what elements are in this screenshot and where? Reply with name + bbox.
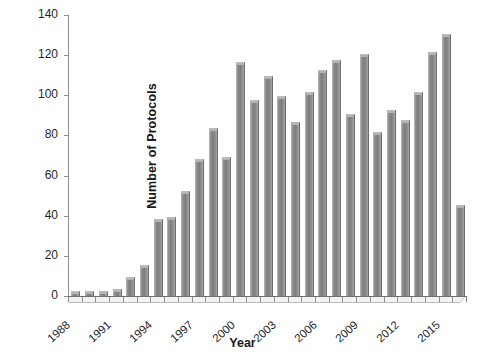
bar xyxy=(442,34,451,296)
x-axis-tick-mark xyxy=(150,297,151,302)
x-axis-tick-mark xyxy=(178,297,179,302)
x-axis-tick-mark xyxy=(315,297,316,302)
bar xyxy=(291,122,300,296)
x-axis-tick-mark xyxy=(246,297,247,302)
bar xyxy=(318,70,327,296)
x-axis-tick-mark xyxy=(205,297,206,302)
plot-area: 020406080100120140 xyxy=(68,15,466,296)
bar xyxy=(154,219,163,296)
x-axis-tick-mark xyxy=(288,297,289,302)
x-axis-title: Year xyxy=(0,336,485,350)
x-axis-depth xyxy=(69,297,467,303)
x-axis-tick-mark xyxy=(397,297,398,302)
y-axis-tick-label: 60 xyxy=(20,168,58,182)
x-axis-tick-mark xyxy=(123,297,124,302)
y-axis-tick-mark xyxy=(64,216,69,217)
bar xyxy=(346,114,355,296)
bar xyxy=(360,54,369,296)
x-axis-tick-mark xyxy=(164,297,165,302)
bar-top-highlight xyxy=(223,158,230,160)
x-axis-tick-mark xyxy=(329,297,330,302)
y-axis-tick-label: 40 xyxy=(20,208,58,222)
x-axis-tick-mark xyxy=(425,297,426,302)
bar xyxy=(401,120,410,296)
y-axis-tick-mark xyxy=(64,135,69,136)
y-axis-tick-label: 120 xyxy=(20,47,58,61)
bar-top-highlight xyxy=(374,133,381,135)
x-axis-tick-mark xyxy=(342,297,343,302)
x-axis-line xyxy=(68,296,467,297)
bar-top-highlight xyxy=(278,97,285,99)
bar xyxy=(209,128,218,296)
bar-top-highlight xyxy=(168,218,175,220)
x-axis-tick-mark xyxy=(260,297,261,302)
x-axis-tick-mark xyxy=(452,297,453,302)
y-axis-tick-label: 0 xyxy=(20,288,58,302)
x-axis-tick-mark xyxy=(109,297,110,302)
x-axis-tick-mark xyxy=(137,297,138,302)
x-axis-tick-mark xyxy=(411,297,412,302)
y-axis-tick-label: 80 xyxy=(20,127,58,141)
x-axis-tick-mark xyxy=(439,297,440,302)
y-axis-tick-label: 20 xyxy=(20,248,58,262)
bar-top-highlight xyxy=(347,115,354,117)
bar-top-highlight xyxy=(100,292,107,294)
bar-top-highlight xyxy=(429,53,436,55)
bar-top-highlight xyxy=(237,63,244,65)
x-axis-tick-mark xyxy=(466,297,467,302)
bar-top-highlight xyxy=(196,160,203,162)
bar-top-highlight xyxy=(415,93,422,95)
bar-top-highlight xyxy=(182,192,189,194)
bar-top-highlight xyxy=(141,266,148,268)
bar-top-highlight xyxy=(72,292,79,294)
bar-top-highlight xyxy=(127,278,134,280)
y-axis-tick-mark xyxy=(64,176,69,177)
y-axis-tick-label: 140 xyxy=(20,7,58,21)
bar-top-highlight xyxy=(210,129,217,131)
x-axis-tick-mark xyxy=(370,297,371,302)
y-axis-tick-mark xyxy=(64,256,69,257)
y-axis-tick-label: 100 xyxy=(20,87,58,101)
bar-chart-figure: Number of Protocols 020406080100120140 1… xyxy=(0,0,485,363)
bar xyxy=(414,92,423,296)
y-axis-tick-mark xyxy=(64,95,69,96)
bar xyxy=(222,157,231,296)
bar-top-highlight xyxy=(388,111,395,113)
bar xyxy=(181,191,190,296)
bar xyxy=(277,96,286,296)
bar-top-highlight xyxy=(402,121,409,123)
bar-top-highlight xyxy=(319,71,326,73)
bar-top-highlight xyxy=(361,55,368,57)
x-axis-tick-mark xyxy=(82,297,83,302)
x-axis-tick-mark xyxy=(219,297,220,302)
bar-top-highlight xyxy=(114,290,121,292)
bar xyxy=(428,52,437,296)
bar xyxy=(195,159,204,296)
x-axis-tick-mark xyxy=(356,297,357,302)
bar xyxy=(387,110,396,296)
bar xyxy=(305,92,314,296)
x-axis-tick-mark xyxy=(384,297,385,302)
bar xyxy=(126,277,135,296)
bar-top-highlight xyxy=(86,292,93,294)
bar-top-highlight xyxy=(457,206,464,208)
x-axis-tick-mark xyxy=(301,297,302,302)
bar xyxy=(456,205,465,296)
bar-top-highlight xyxy=(155,220,162,222)
y-axis-tick-mark xyxy=(64,15,69,16)
bar xyxy=(236,62,245,296)
bar xyxy=(113,289,122,296)
x-axis-tick-mark xyxy=(192,297,193,302)
bar xyxy=(373,132,382,296)
bar xyxy=(167,217,176,296)
bar-top-highlight xyxy=(292,123,299,125)
bar-top-highlight xyxy=(333,61,340,63)
bar xyxy=(264,76,273,296)
bar xyxy=(332,60,341,296)
bar-top-highlight xyxy=(265,77,272,79)
x-axis-tick-mark xyxy=(95,297,96,302)
bar xyxy=(250,100,259,296)
bar xyxy=(140,265,149,296)
x-axis-tick-mark xyxy=(274,297,275,302)
x-axis-tick-mark xyxy=(68,297,69,302)
